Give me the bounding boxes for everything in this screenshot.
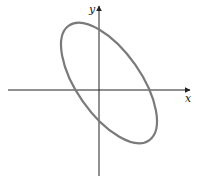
y-axis-label: y [88,3,96,16]
rotated-ellipse [43,7,176,158]
x-axis-label: x [185,92,192,105]
ellipse-diagram: y x [0,0,200,181]
